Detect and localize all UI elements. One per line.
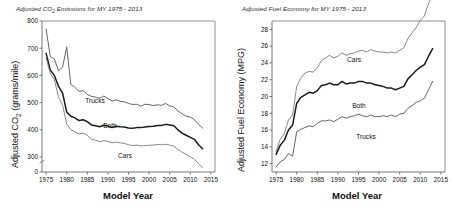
svg-text:26: 26 [261, 42, 269, 49]
svg-text:2000: 2000 [142, 176, 157, 183]
plot-area-co2: 0300400500600700800197519801985199019952… [0, 0, 226, 212]
svg-text:2015: 2015 [204, 176, 219, 183]
series-label-cars: Cars [347, 56, 362, 63]
svg-text:12: 12 [261, 160, 269, 167]
svg-text:0: 0 [34, 168, 38, 175]
svg-text:700: 700 [27, 45, 38, 52]
x-axis-label-mpg: Model Year [332, 190, 382, 201]
svg-text:2010: 2010 [413, 176, 428, 183]
svg-text:1975: 1975 [269, 176, 284, 183]
series-label-both: Both [352, 102, 366, 109]
svg-text:1995: 1995 [351, 176, 366, 183]
series-label-trucks: Trucks [85, 97, 105, 104]
svg-text:600: 600 [27, 72, 38, 79]
svg-text:1985: 1985 [80, 176, 95, 183]
svg-text:2005: 2005 [393, 176, 408, 183]
figure: Adjusted CO2 Emissions for MY 1975 - 201… [0, 0, 452, 212]
svg-text:1980: 1980 [290, 176, 305, 183]
svg-text:18: 18 [261, 110, 269, 117]
svg-text:1985: 1985 [310, 176, 325, 183]
svg-text:400: 400 [27, 126, 38, 133]
series-label-cars: Cars [118, 152, 133, 159]
x-axis-label-co2: Model Year [103, 190, 153, 201]
series-label-trucks: Trucks [356, 133, 376, 140]
series-label-both: Both [103, 122, 117, 129]
svg-text:300: 300 [27, 153, 38, 160]
svg-text:24: 24 [261, 59, 269, 66]
svg-text:1990: 1990 [101, 176, 116, 183]
svg-text:2015: 2015 [434, 176, 449, 183]
svg-text:16: 16 [261, 126, 269, 133]
svg-text:1975: 1975 [39, 176, 54, 183]
svg-text:28: 28 [261, 26, 269, 33]
plot-area-mpg: 1214161820222426281975198019851990199520… [226, 0, 452, 212]
svg-text:500: 500 [27, 99, 38, 106]
svg-text:2005: 2005 [163, 176, 178, 183]
svg-text:800: 800 [27, 17, 38, 24]
panel-co2-emissions: Adjusted CO2 Emissions for MY 1975 - 201… [0, 0, 226, 212]
svg-text:22: 22 [261, 76, 269, 83]
svg-text:1980: 1980 [60, 176, 75, 183]
svg-text:20: 20 [261, 93, 269, 100]
panel-fuel-economy: Adjusted Fuel Economy for MY 1975 - 2013… [226, 0, 452, 212]
svg-text:14: 14 [261, 143, 269, 150]
svg-text:1995: 1995 [121, 176, 136, 183]
svg-text:2000: 2000 [372, 176, 387, 183]
svg-text:1990: 1990 [331, 176, 346, 183]
svg-text:2010: 2010 [183, 176, 198, 183]
